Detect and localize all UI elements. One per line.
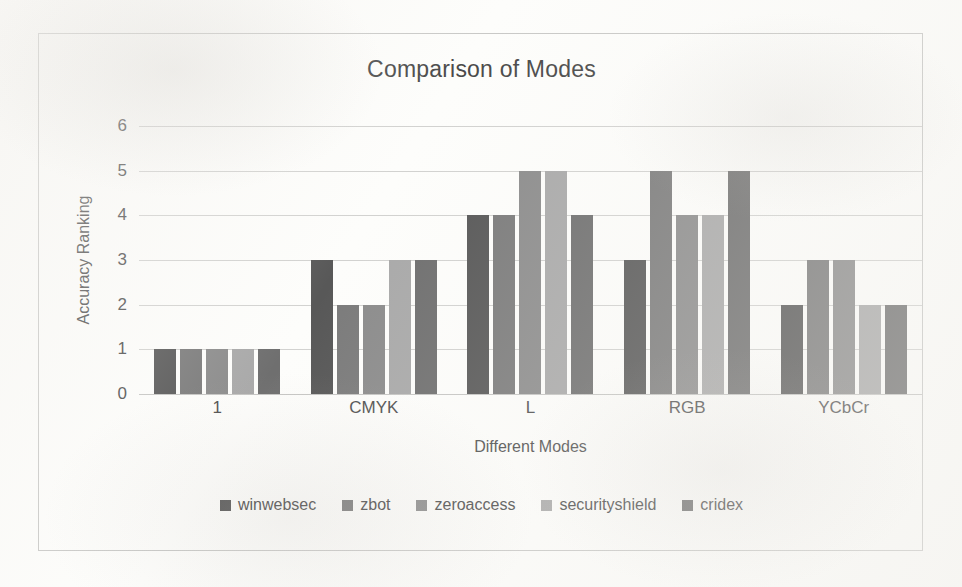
legend-item[interactable]: securityshield [541, 496, 656, 514]
bar [885, 305, 907, 394]
bar [467, 215, 489, 394]
bar [807, 260, 829, 394]
legend-label: zeroaccess [434, 496, 515, 514]
legend-swatch-icon [541, 500, 552, 511]
y-tick-label: 0 [118, 384, 127, 404]
bar [415, 260, 437, 394]
bar-group [311, 126, 437, 394]
bar [337, 305, 359, 394]
legend-swatch-icon [342, 500, 353, 511]
bar [519, 171, 541, 394]
bar [154, 349, 176, 394]
legend-label: securityshield [559, 496, 656, 514]
bar [545, 171, 567, 394]
legend-item[interactable]: zbot [342, 496, 390, 514]
x-tick-label: L [465, 398, 595, 418]
chart-legend: winwebseczbotzeroaccesssecurityshieldcri… [39, 496, 924, 514]
legend-swatch-icon [220, 500, 231, 511]
bar [781, 305, 803, 394]
bar [571, 215, 593, 394]
legend-label: winwebsec [238, 496, 316, 514]
plot-area: 0123456 [139, 126, 922, 394]
bar [624, 260, 646, 394]
bar-group [154, 126, 280, 394]
bar [859, 305, 881, 394]
bar [728, 171, 750, 394]
legend-label: zbot [360, 496, 390, 514]
bar [206, 349, 228, 394]
gridline-0: 0 [139, 394, 922, 395]
bar [833, 260, 855, 394]
x-axis-title: Different Modes [139, 438, 922, 456]
bar [650, 171, 672, 394]
bar-group [624, 126, 750, 394]
bar [258, 349, 280, 394]
y-tick-label: 3 [118, 250, 127, 270]
bar [702, 215, 724, 394]
y-tick-label: 6 [118, 116, 127, 136]
bar [363, 305, 385, 394]
x-tick-label: CMYK [309, 398, 439, 418]
bar [389, 260, 411, 394]
legend-item[interactable]: cridex [682, 496, 743, 514]
bars-layer [139, 126, 922, 394]
x-tick-label: RGB [622, 398, 752, 418]
y-tick-label: 4 [118, 205, 127, 225]
bar [232, 349, 254, 394]
x-tick-label: 1 [152, 398, 282, 418]
legend-item[interactable]: winwebsec [220, 496, 316, 514]
bar [311, 260, 333, 394]
y-axis-title: Accuracy Ranking [75, 126, 97, 394]
bar-group [781, 126, 907, 394]
x-tick-label: YCbCr [779, 398, 909, 418]
bar [493, 215, 515, 394]
y-tick-label: 5 [118, 160, 127, 180]
bar-group [467, 126, 593, 394]
bar [180, 349, 202, 394]
chart-frame: Comparison of Modes Accuracy Ranking 012… [38, 33, 923, 551]
x-axis-tick-labels: 1CMYKLRGBYCbCr [139, 398, 922, 418]
y-tick-label: 1 [118, 339, 127, 359]
y-tick-label: 2 [118, 294, 127, 314]
legend-swatch-icon [682, 500, 693, 511]
chart-title: Comparison of Modes [39, 56, 924, 83]
legend-swatch-icon [416, 500, 427, 511]
legend-label: cridex [700, 496, 743, 514]
bar [676, 215, 698, 394]
legend-item[interactable]: zeroaccess [416, 496, 515, 514]
